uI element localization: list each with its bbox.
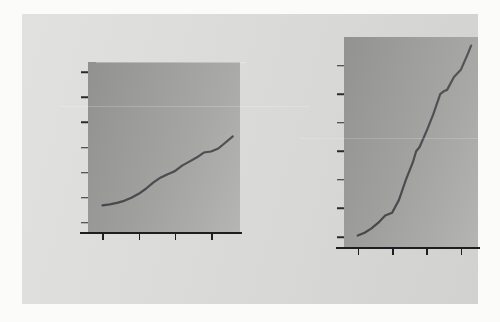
plot-area — [344, 37, 478, 247]
figure-root — [0, 0, 500, 322]
y-tick-mark — [81, 71, 88, 73]
x-tick-mark — [358, 249, 360, 255]
chart-right — [252, 14, 478, 304]
y-tick-mark — [337, 93, 344, 95]
x-tick-mark — [139, 234, 141, 240]
data-series-line — [344, 37, 478, 247]
y-tick-mark — [81, 96, 88, 98]
scan-streak — [96, 62, 246, 63]
x-tick-mark — [102, 234, 104, 240]
x-tick-mark — [461, 249, 463, 255]
x-axis-line — [80, 232, 242, 234]
y-tick-mark — [337, 65, 344, 67]
scan-streak — [60, 106, 310, 107]
x-tick-mark — [426, 249, 428, 255]
x-tick-mark — [392, 249, 394, 255]
y-tick-mark — [81, 172, 88, 174]
data-series-line — [88, 62, 240, 232]
y-tick-mark — [81, 122, 88, 124]
chart-left — [22, 14, 252, 304]
x-tick-mark — [175, 234, 177, 240]
plot-area — [88, 62, 240, 232]
y-tick-mark — [337, 179, 344, 181]
y-tick-mark — [81, 147, 88, 149]
scan-streak — [300, 138, 478, 139]
y-tick-mark — [337, 122, 344, 124]
y-tick-mark — [337, 151, 344, 153]
y-tick-mark — [337, 236, 344, 238]
y-tick-mark — [81, 222, 88, 224]
y-tick-mark — [337, 208, 344, 210]
y-tick-mark — [81, 197, 88, 199]
x-tick-mark — [211, 234, 213, 240]
